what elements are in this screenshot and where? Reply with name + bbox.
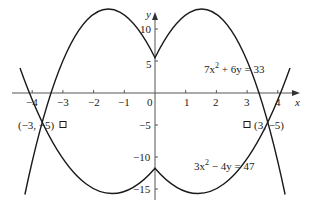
- intersection-marker: [60, 122, 66, 128]
- y-axis: [152, 12, 158, 200]
- parabola-intersection-diagram: −4 −3 −2 −1 0 1 2 3 4 x 10 5 −5 −10 −15 …: [0, 0, 317, 209]
- intersection-marker: [244, 122, 250, 128]
- intersection-label-left: (−3, −5): [18, 119, 55, 132]
- x-axis: [12, 90, 300, 96]
- y-tick-label: −5: [139, 119, 151, 131]
- diagram-root: −4 −3 −2 −1 0 1 2 3 4 x 10 5 −5 −10 −15 …: [0, 0, 317, 209]
- lower-parabola-equation: 3x2 − 4y = 47: [194, 158, 255, 172]
- y-tick-label: 5: [146, 58, 152, 70]
- x-tick-label: 2: [213, 96, 219, 108]
- x-tick-label: 1: [184, 96, 190, 108]
- x-tick-label: −1: [118, 96, 130, 108]
- y-tick-label: −15: [133, 183, 151, 195]
- x-tick-label: 3: [244, 96, 250, 108]
- upper-parabola-equation: 7x2 + 6y = 33: [204, 61, 265, 75]
- x-tick-label: −2: [88, 96, 100, 108]
- y-tick-label: 10: [140, 23, 152, 35]
- x-tick-label: 0: [147, 96, 153, 108]
- x-tick-label: −3: [57, 96, 69, 108]
- intersection-label-right: (3, −5): [254, 119, 284, 132]
- y-tick-label: −10: [133, 151, 151, 163]
- x-axis-label: x: [294, 96, 300, 108]
- y-axis-label: y: [145, 8, 151, 20]
